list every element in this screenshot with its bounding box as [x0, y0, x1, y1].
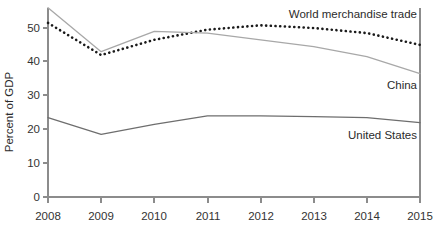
y-axis-ticks	[43, 28, 48, 197]
y-tick-label-10: 10	[27, 157, 40, 169]
y-tick-label-40: 40	[27, 55, 40, 67]
y-axis-title: Percent of GDP	[3, 71, 15, 152]
series-label-united-states: United States	[348, 129, 417, 141]
x-tick-label-2008: 2008	[35, 210, 61, 222]
series-layer	[48, 8, 420, 135]
x-tick-label-2009: 2009	[88, 210, 114, 222]
y-tick-label-0: 0	[34, 191, 40, 203]
x-axis-ticks	[48, 197, 420, 203]
x-tick-label-2010: 2010	[141, 210, 167, 222]
line-chart: Percent of GDP 0 10 20 30 40 50	[0, 0, 441, 230]
x-tick-label-2011: 2011	[196, 210, 221, 222]
x-tick-label-2012: 2012	[248, 210, 274, 222]
y-tick-label-50: 50	[27, 22, 40, 34]
x-tick-label-2013: 2013	[301, 210, 327, 222]
series-label-china: China	[387, 79, 418, 91]
series-label-world-merchandise-trade: World merchandise trade	[289, 8, 417, 20]
chart-container: Percent of GDP 0 10 20 30 40 50	[0, 0, 441, 230]
x-tick-label-2015: 2015	[407, 210, 433, 222]
x-tick-label-2014: 2014	[354, 210, 380, 222]
y-tick-label-20: 20	[27, 123, 40, 135]
y-tick-label-30: 30	[27, 89, 40, 101]
